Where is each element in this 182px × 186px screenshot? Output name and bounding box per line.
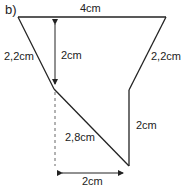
left-side-label: 2,2cm	[4, 51, 34, 62]
right-vertical-label: 2cm	[136, 120, 157, 131]
height-label: 2cm	[61, 50, 82, 61]
figure	[0, 0, 182, 186]
diagonal-label: 2,8cm	[65, 132, 95, 143]
bottom-length-label: 2cm	[82, 176, 103, 186]
part-label: b)	[5, 3, 17, 16]
right-side-label: 2,2cm	[151, 51, 181, 62]
top-length-label: 4cm	[80, 3, 101, 14]
shape-outline	[18, 17, 166, 166]
